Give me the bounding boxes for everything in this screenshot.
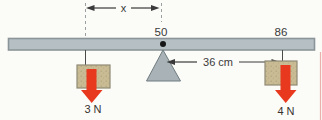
pivot-mark-label: 50 bbox=[155, 26, 168, 38]
left-force-label: 3 N bbox=[84, 103, 101, 115]
right-mark-label: 86 bbox=[275, 26, 288, 38]
diagram-canvas: x 50 86 36 cm 3 N bbox=[0, 0, 322, 120]
pivot-dot bbox=[160, 41, 166, 47]
x-dimension-label: x bbox=[121, 2, 127, 14]
distance-label: 36 cm bbox=[203, 56, 233, 68]
lever-diagram: x 50 86 36 cm 3 N bbox=[0, 0, 322, 120]
right-force-label: 4 N bbox=[277, 105, 294, 117]
